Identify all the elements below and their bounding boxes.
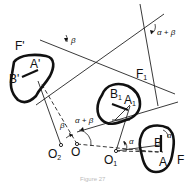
- figure-caption: Figure 27: [80, 176, 106, 182]
- label-angle-alpha-beta-o: α + β: [75, 116, 94, 125]
- label-f-prime: F': [15, 39, 25, 53]
- label-angle-alpha-beta-top: α + β: [157, 28, 176, 37]
- label-angle-alpha-b: α: [167, 131, 172, 140]
- line-o1-to-a1: [116, 106, 130, 151]
- angle-alpha-beta-arc-o: [79, 130, 91, 146]
- label-angle-beta-o2: β: [59, 121, 65, 130]
- label-f1: F1: [136, 67, 147, 81]
- label-o: O: [71, 145, 80, 159]
- line-vertical-right: [140, 4, 158, 106]
- label-a: A: [159, 155, 167, 169]
- diagram-canvas: F' A' B' F1 B1 A1 F B A O2 O O1 β α + β …: [0, 0, 188, 182]
- rotation-diagram: F' A' B' F1 B1 A1 F B A O2 O O1 β α + β …: [0, 0, 188, 182]
- label-o2: O2: [48, 147, 61, 161]
- pivot-o1: [114, 149, 117, 152]
- label-b: B: [154, 136, 162, 150]
- label-f: F: [177, 153, 184, 167]
- pivot-o2: [59, 143, 62, 146]
- label-o1: O1: [104, 153, 117, 167]
- label-b1: B1: [110, 87, 122, 101]
- label-a1: A1: [124, 93, 136, 107]
- label-angle-beta-top: β: [70, 36, 76, 45]
- line-a-prime-top: [36, 14, 164, 105]
- label-b-prime: B': [9, 72, 19, 86]
- segment-a-prime-b-prime: [22, 70, 38, 77]
- label-angle-alpha-o1: α: [129, 137, 134, 146]
- line-o2-to-a-prime: [38, 81, 61, 145]
- label-a-prime: A': [30, 57, 40, 71]
